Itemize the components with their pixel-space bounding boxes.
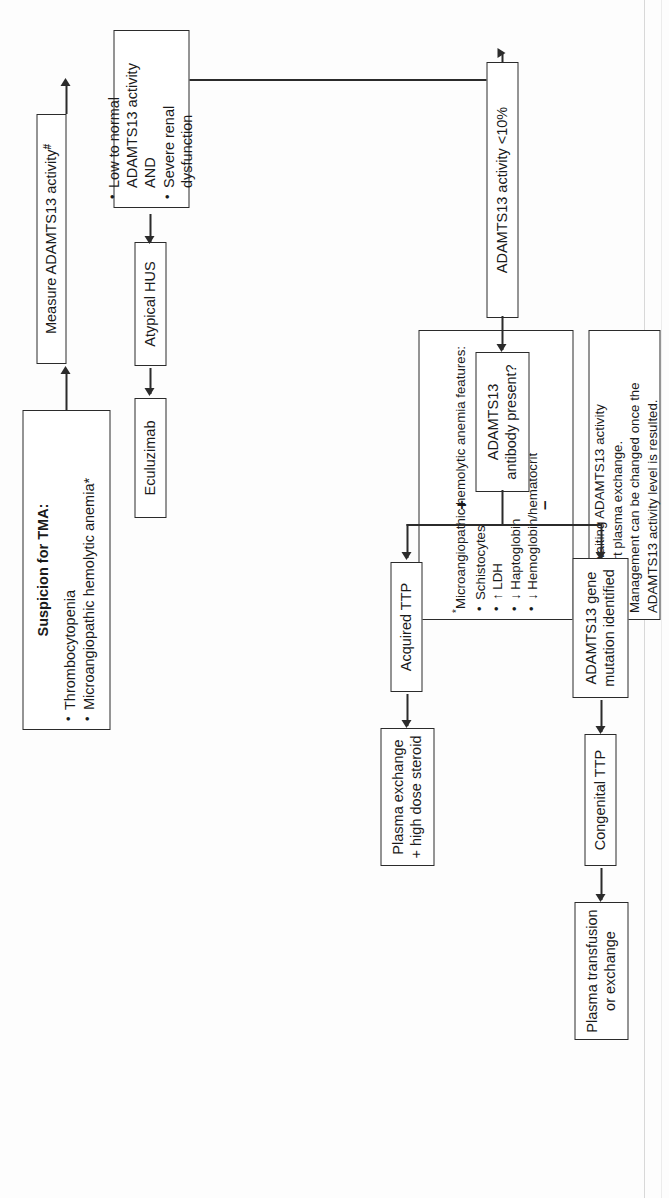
measure-label: Measure ADAMTS13 activity# (41, 121, 61, 357)
list-item: Thrombocytopenia (61, 417, 79, 710)
gene-mutation-label: ADAMTS13 gene mutation identified (582, 565, 617, 691)
footnote-star-heading: *Microangiopathic hemolytic anemia featu… (449, 337, 469, 613)
suspicion-heading: Suspicion for TMA: (33, 417, 51, 723)
activity-low-label: ADAMTS13 activity <10% (493, 69, 511, 311)
suspicion-bullet-list: Thrombocytopenia Microangiopathic hemoly… (61, 417, 99, 723)
arrowhead-icon (60, 78, 70, 86)
congenital-ttp-label: Congenital TTP (591, 741, 609, 859)
arrowhead-icon (496, 344, 506, 352)
decision-split-vertical (406, 524, 601, 526)
arrowhead-icon (144, 236, 154, 244)
arrowhead-icon (595, 894, 605, 902)
rotated-diagram-wrapper: Suspicion for TMA: Thrombocytopenia Micr… (0, 0, 669, 1198)
node-plasma-exchange-steroid: Plasma exchange + high dose steroid (380, 728, 434, 866)
low-normal-bullet-list: Low to normal ADAMTS13 activity AND Seve… (105, 37, 197, 201)
arrowhead-icon (60, 366, 70, 374)
antibody-label: ADAMTS13 antibody present? (484, 359, 519, 485)
node-plasma-transfusion-exchange: Plasma transfusion or exchange (574, 902, 628, 1040)
edge-label-negative: – (535, 501, 552, 510)
flowchart-page: Suspicion for TMA: Thrombocytopenia Micr… (0, 0, 669, 1198)
arrowhead-icon (401, 552, 411, 560)
edge-label-positive: + (452, 500, 469, 510)
node-adamts13-activity-low: ADAMTS13 activity <10% (486, 62, 518, 318)
node-adamts13-antibody-present: ADAMTS13 antibody present? (475, 352, 529, 492)
down-arrow-icon: ↓ (507, 593, 522, 600)
footnote-hash-line-4: ADAMTS13 activity level is resulted. (643, 337, 660, 613)
edge-measure-out (65, 82, 67, 114)
measure-marker: # (41, 144, 52, 150)
node-atypical-hus: Atypical HUS (134, 242, 166, 366)
arrowhead-icon (401, 720, 411, 728)
node-suspicion-for-tma: Suspicion for TMA: Thrombocytopenia Micr… (22, 410, 110, 730)
list-item: Microangiopathic hemolytic anemia* (80, 417, 98, 710)
arrowhead-icon (497, 48, 505, 58)
arrowhead-icon (595, 726, 605, 734)
node-congenital-ttp: Congenital TTP (584, 734, 616, 866)
node-eculizumab: Eculuzimab (134, 398, 166, 518)
branch-spine-vertical (152, 79, 502, 81)
down-arrow-icon: ↓ (524, 593, 539, 600)
atypical-hus-label: Atypical HUS (141, 249, 159, 359)
plasma-transfusion-label: Plasma transfusion or exchange (583, 909, 618, 1033)
edge-antibody-out (501, 490, 503, 526)
plasma-exchange-label: Plasma exchange + high dose steroid (389, 735, 424, 859)
node-gene-mutation-identified: ADAMTS13 gene mutation identified (572, 558, 628, 698)
list-item: Low to normal ADAMTS13 activity AND (105, 37, 159, 188)
up-arrow-icon: ↑ (489, 593, 504, 600)
edge-suspicion-to-measure (65, 372, 67, 410)
eculizumab-label: Eculuzimab (141, 405, 159, 511)
arrowhead-icon (144, 388, 154, 396)
acquired-ttp-label: Acquired TTP (397, 569, 415, 685)
node-measure-adamts13: Measure ADAMTS13 activity# (36, 114, 66, 364)
list-item: Severe renal dysfunction (160, 37, 196, 188)
node-low-to-normal-adamts13: Low to normal ADAMTS13 activity AND Seve… (113, 30, 189, 208)
diagram-canvas: Suspicion for TMA: Thrombocytopenia Micr… (0, 0, 669, 1198)
node-acquired-ttp: Acquired TTP (390, 562, 422, 692)
